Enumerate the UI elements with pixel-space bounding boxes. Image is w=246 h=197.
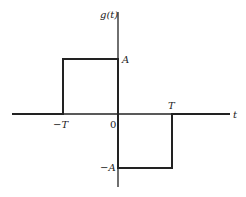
x-axis-label: t xyxy=(233,109,238,120)
amplitude-pos-label: A xyxy=(121,54,129,65)
amplitude-neg-label: −A xyxy=(100,162,116,173)
waveform-diagram: g(t) A −A −T 0 T t xyxy=(0,0,246,197)
time-neg-label: −T xyxy=(53,119,69,130)
function-label: g(t) xyxy=(100,9,118,20)
time-pos-label: T xyxy=(168,100,176,111)
origin-label: 0 xyxy=(110,119,116,130)
